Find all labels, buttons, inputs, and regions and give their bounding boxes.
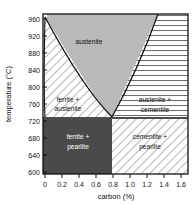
region-label-ferrite-plus-pearlite-line1: ferrite + bbox=[67, 133, 90, 140]
x-tick-label: 1.0 bbox=[125, 181, 135, 188]
region-label-austenite: austenite bbox=[76, 38, 103, 45]
y-tick-label: 960 bbox=[28, 16, 40, 23]
x-tick-label: 0.6 bbox=[91, 181, 101, 188]
y-tick-label: 640 bbox=[28, 152, 40, 159]
y-tick-label: 800 bbox=[28, 84, 40, 91]
y-tick-label: 920 bbox=[28, 33, 40, 40]
y-axis-tick-labels: 960 920 880 840 800 760 720 680 640 600 bbox=[28, 16, 40, 176]
y-tick-label: 720 bbox=[28, 118, 40, 125]
phase-diagram-figure: 960 920 880 840 800 760 720 680 640 600 … bbox=[0, 0, 194, 206]
region-label-ferrite-plus-austenite-line1: ferrite + bbox=[57, 96, 80, 103]
x-tick-label: 0 bbox=[43, 181, 47, 188]
y-tick-label: 760 bbox=[28, 101, 40, 108]
region-label-ferrite-plus-austenite-line2: austenite bbox=[55, 105, 82, 112]
y-tick-label: 880 bbox=[28, 50, 40, 57]
region-label-austenite-plus-cementite-line2: cementite bbox=[141, 106, 170, 113]
x-tick-label: 1.4 bbox=[159, 181, 169, 188]
x-tick-label: 1.2 bbox=[142, 181, 152, 188]
region-label-cementite-plus-pearlite-line1: cementite + bbox=[133, 133, 167, 140]
region-label-austenite-plus-cementite-line1: austenite + bbox=[139, 96, 172, 103]
x-tick-label: 0.2 bbox=[57, 181, 67, 188]
x-tick-label: 0.4 bbox=[74, 181, 84, 188]
x-tick-label: 1.6 bbox=[176, 181, 186, 188]
x-tick-label: 0.8 bbox=[108, 181, 118, 188]
x-axis-tick-labels: 0 0.2 0.4 0.6 0.8 1.0 1.2 1.4 1.6 bbox=[43, 181, 186, 188]
x-axis-title: carbon (%) bbox=[98, 192, 135, 201]
y-tick-label: 840 bbox=[28, 67, 40, 74]
y-tick-label: 600 bbox=[28, 169, 40, 176]
region-label-ferrite-plus-pearlite-line2: pearlite bbox=[67, 143, 89, 151]
region-label-cementite-plus-pearlite-line2: pearlite bbox=[139, 143, 161, 151]
iron-carbon-phase-diagram: 960 920 880 840 800 760 720 680 640 600 … bbox=[0, 0, 194, 206]
y-axis-title: temperature (°C) bbox=[4, 66, 13, 122]
y-tick-label: 680 bbox=[28, 135, 40, 142]
